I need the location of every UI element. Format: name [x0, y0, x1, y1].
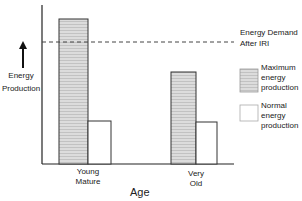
reference-label-line2: After IRI [240, 39, 269, 49]
bar-very-old-normal [196, 122, 217, 164]
category-label-young-line2: Mature [76, 177, 101, 187]
category-label-old-line2: Old [190, 179, 202, 189]
legend-maximum-line2: energy [261, 73, 285, 83]
category-label-old-line1: Very [188, 169, 204, 179]
legend-maximum-line1: Maximum [261, 63, 296, 73]
bar-very-old-maximum [171, 72, 196, 164]
legend-swatch-normal [240, 105, 258, 121]
category-label-young-line1: Young [77, 167, 99, 177]
y-axis-label-line2: Production [2, 84, 40, 94]
up-arrow-icon [19, 41, 27, 68]
legend-maximum-line3: production [261, 83, 298, 93]
y-axis-label-line1: Energy [8, 71, 33, 81]
bar-young-mature-normal [88, 121, 111, 164]
reference-label-line1: Energy Demand [240, 28, 298, 38]
legend-swatch-maximum [240, 69, 258, 92]
legend-normal-line2: energy [261, 111, 285, 121]
x-axis-label: Age [130, 186, 150, 198]
bar-young-mature-maximum [59, 19, 88, 164]
legend-normal-line1: Normal [261, 101, 287, 111]
legend-normal-line3: production [261, 121, 298, 131]
